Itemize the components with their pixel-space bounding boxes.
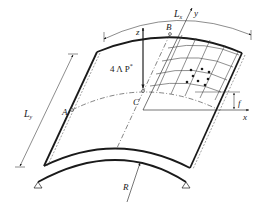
label-load: 4 Λ P*: [110, 63, 133, 74]
shell-right-edge: [190, 53, 242, 168]
shell-bottom-edge: [44, 148, 190, 168]
label-z-axis: z: [135, 27, 140, 37]
label-ly: Ly: [23, 108, 33, 120]
label-R: R: [122, 182, 129, 192]
label-A: A: [61, 107, 68, 117]
lx-dimension: [104, 20, 251, 39]
shell-top-edge: [97, 37, 242, 53]
shell-left-edge: [44, 52, 97, 166]
midsurface-arc: [72, 92, 215, 110]
label-f: f: [238, 98, 242, 108]
label-C: C: [133, 97, 140, 107]
shell-right-inner-edge: [193, 55, 245, 169]
label-y-axis: y: [193, 8, 198, 18]
shell-diagram: Lx y z B 4 Λ P* C A Ly f x R: [0, 0, 267, 211]
left-support-icon: [34, 182, 42, 188]
right-support-icon: [182, 182, 190, 188]
support-beam-top: [38, 160, 186, 182]
label-x-axis: x: [242, 112, 247, 122]
label-B: B: [166, 22, 172, 32]
radius-arrow: [127, 163, 140, 202]
point-C-marker: [142, 90, 145, 93]
point-A-marker: [71, 109, 74, 112]
point-B-marker: [169, 33, 172, 36]
label-lx: Lx: [173, 8, 183, 20]
